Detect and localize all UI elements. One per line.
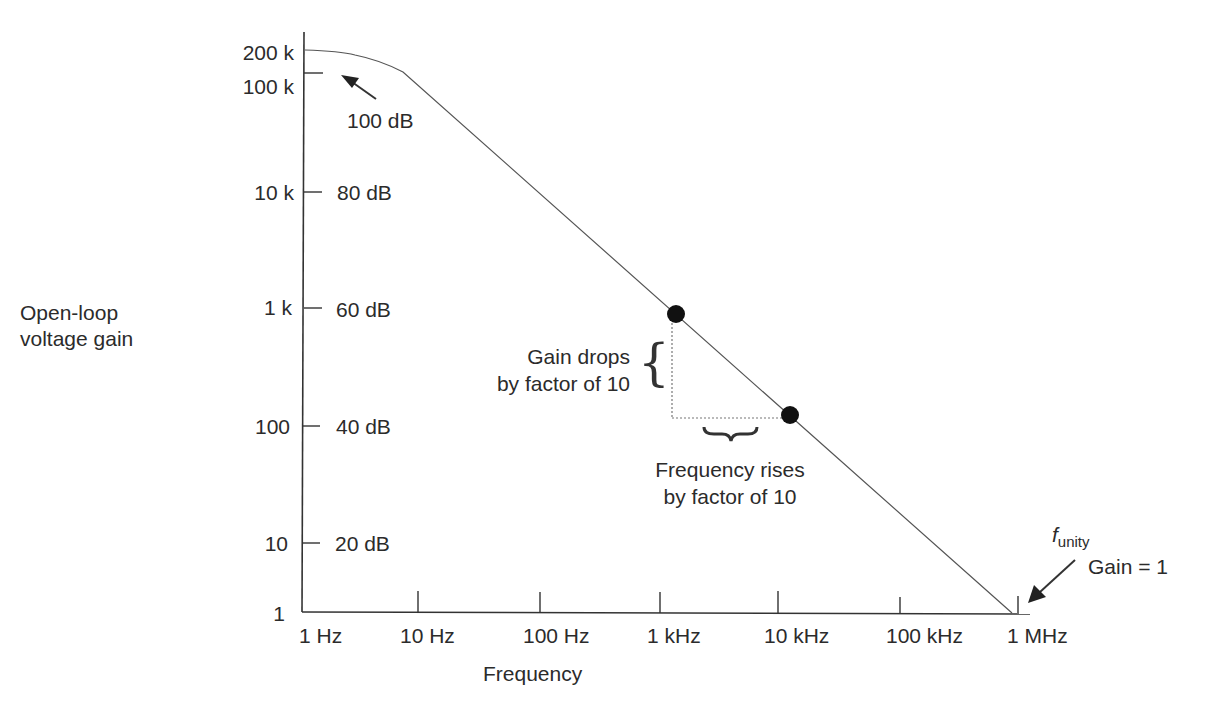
freq-rises-annotation: Frequency rises by factor of 10 [630, 456, 830, 510]
x-axis-title: Frequency [483, 663, 582, 684]
gain-drops-annotation: Gain drops by factor of 10 [440, 343, 630, 397]
y-axis [302, 32, 304, 612]
x-tick-10hz: 10 Hz [400, 625, 455, 646]
slope-triangle [672, 315, 788, 418]
y-tick-1k: 1 k [230, 297, 292, 318]
y-ticks [303, 73, 323, 543]
db-label-100: 100 dB [347, 110, 414, 131]
db-label-20: 20 dB [335, 533, 390, 554]
freq-rises-line2: by factor of 10 [630, 483, 830, 510]
point-1khz [667, 305, 685, 323]
funity-sub: unity [1058, 533, 1090, 550]
y-axis-title-line2: voltage gain [20, 326, 133, 352]
x-ticks [418, 591, 1018, 614]
x-tick-1khz: 1 kHz [647, 625, 701, 646]
gain-equals-1-label: Gain = 1 [1088, 556, 1168, 577]
y-tick-200k: 200 k [230, 42, 294, 63]
freq-rises-line1: Frequency rises [630, 456, 830, 483]
x-tick-1mhz: 1 MHz [1007, 625, 1068, 646]
gain-curve [305, 50, 1012, 613]
y-axis-title-line1: Open-loop [20, 300, 133, 326]
gain-drops-line2: by factor of 10 [440, 370, 630, 397]
db-label-60: 60 dB [336, 299, 391, 320]
x-axis [302, 612, 1030, 614]
db-label-80: 80 dB [337, 182, 392, 203]
db-label-40: 40 dB [336, 416, 391, 437]
vertical-brace-icon: { [638, 338, 670, 388]
x-tick-100khz: 100 kHz [886, 625, 963, 646]
y-tick-10k: 10 k [230, 182, 294, 203]
x-tick-1hz: 1 Hz [299, 625, 342, 646]
y-tick-100k: 100 k [230, 76, 294, 97]
gain-drops-line1: Gain drops [440, 343, 630, 370]
y-tick-10: 10 [230, 533, 288, 554]
y-axis-title: Open-loop voltage gain [20, 300, 133, 352]
x-tick-10khz: 10 kHz [764, 625, 829, 646]
arrow-funity-icon [1028, 560, 1075, 603]
funity-label: funity [1052, 524, 1090, 549]
y-tick-100: 100 [230, 416, 290, 437]
point-10khz [781, 406, 799, 424]
y-tick-1: 1 [230, 603, 285, 624]
x-tick-100hz: 100 Hz [523, 625, 590, 646]
arrow-100db-icon [341, 75, 376, 99]
horizontal-brace-icon [704, 427, 757, 441]
open-loop-gain-chart: 200 k 100 k 10 k 1 k 100 10 1 100 dB 80 … [0, 0, 1208, 715]
